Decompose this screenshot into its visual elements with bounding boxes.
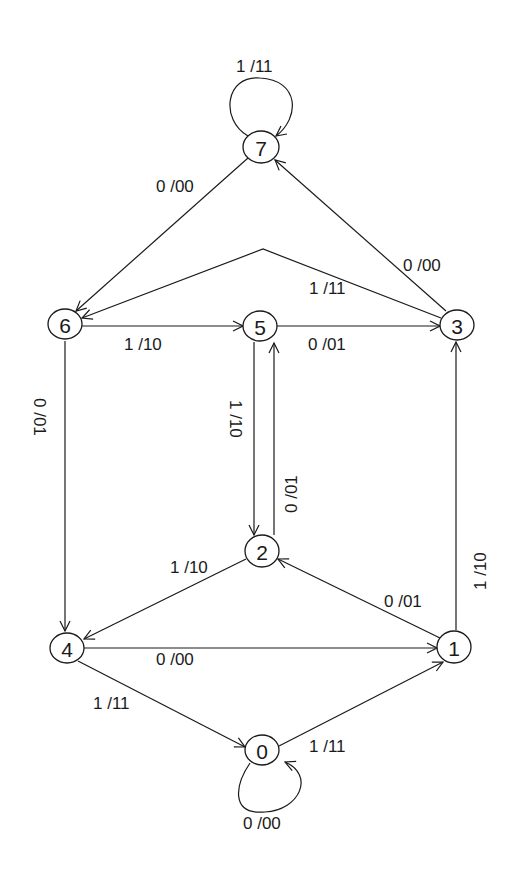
edge-0-1 bbox=[279, 662, 443, 746]
edge-3-7 bbox=[275, 160, 446, 311]
edge-0-0 bbox=[239, 762, 302, 812]
edge-label-1-3: 1 /10 bbox=[471, 552, 490, 590]
node-label-2: 2 bbox=[256, 541, 268, 564]
state-node-4[interactable]: 4 bbox=[50, 633, 84, 663]
state-node-5[interactable]: 5 bbox=[243, 311, 277, 341]
node-label-1: 1 bbox=[448, 637, 460, 660]
edge-label-5-2: 1 /10 bbox=[226, 400, 245, 438]
state-node-0[interactable]: 0 bbox=[245, 735, 279, 765]
node-label-4: 4 bbox=[61, 638, 73, 661]
edge-label-4-1: 0 /00 bbox=[156, 650, 194, 669]
edge-label-0-0: 0 /00 bbox=[243, 814, 281, 833]
edge-label-4-0: 1 /11 bbox=[93, 694, 130, 713]
edge-7-7 bbox=[230, 78, 292, 136]
node-label-5: 5 bbox=[254, 316, 266, 339]
edge-label-0-1: 1 /11 bbox=[309, 737, 346, 756]
edge-label-6-5: 1 /10 bbox=[124, 335, 162, 354]
node-label-3: 3 bbox=[451, 315, 463, 338]
node-label-6: 6 bbox=[59, 314, 71, 337]
edge-label-7-6: 0 /00 bbox=[156, 177, 194, 196]
edge-label-1-2: 0 /01 bbox=[384, 592, 422, 611]
edge-label-7-7: 1 /11 bbox=[236, 57, 273, 76]
nodes: 7 6 5 3 2 4 1 0 bbox=[48, 131, 474, 765]
edge-label-5-3: 0 /01 bbox=[308, 335, 346, 354]
edge-labels: 1 /11 0 /00 0 /00 1 /11 1 /10 0 /01 0 /0… bbox=[30, 57, 490, 833]
state-node-2[interactable]: 2 bbox=[245, 535, 279, 567]
edge-label-3-6: 1 /11 bbox=[309, 279, 346, 298]
edge-label-6-4: 0 /01 bbox=[30, 398, 49, 436]
state-diagram: 7 6 5 3 2 4 1 0 1 /1 bbox=[0, 0, 514, 877]
edge-label-3-7: 0 /00 bbox=[403, 256, 441, 275]
state-node-7[interactable]: 7 bbox=[243, 131, 279, 163]
node-label-7: 7 bbox=[255, 137, 267, 160]
state-node-1[interactable]: 1 bbox=[437, 631, 471, 663]
edge-2-4 bbox=[84, 559, 246, 639]
state-node-3[interactable]: 3 bbox=[440, 310, 474, 340]
state-node-6[interactable]: 6 bbox=[48, 309, 82, 339]
edge-label-2-5: 0 /01 bbox=[282, 475, 301, 513]
node-label-0: 0 bbox=[256, 740, 268, 763]
edge-label-2-4: 1 /10 bbox=[170, 558, 208, 577]
